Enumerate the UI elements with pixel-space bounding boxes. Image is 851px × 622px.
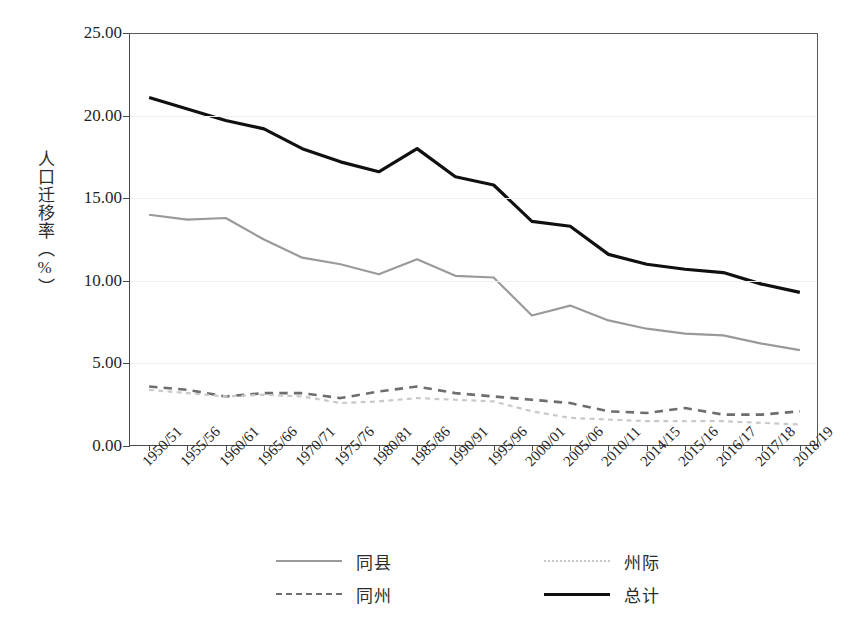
y-tick-label: 20.00	[52, 106, 122, 126]
legend-swatch-州际	[544, 560, 610, 562]
y-tick-mark	[123, 446, 130, 447]
gridline	[130, 198, 818, 199]
series-line-总计	[149, 97, 800, 292]
chart-legend: 同县同州州际总计	[276, 548, 706, 614]
legend-item-州际[interactable]: 州际	[544, 548, 660, 574]
y-tick-mark	[123, 281, 130, 282]
plot-top-border	[129, 33, 818, 34]
y-tick-mark	[123, 363, 130, 364]
y-tick-label: 5.00	[52, 353, 122, 373]
gridline	[130, 363, 818, 364]
legend-swatch-同州	[276, 593, 342, 595]
y-tick-label: 25.00	[52, 23, 122, 43]
legend-swatch-同县	[276, 560, 342, 562]
y-tick-label: 15.00	[52, 188, 122, 208]
chart-figure: 人口迁移率（%） 0.005.0010.0015.0020.0025.00 19…	[0, 0, 851, 622]
legend-item-同州[interactable]: 同州	[276, 581, 392, 607]
legend-swatch-总计	[544, 593, 610, 596]
legend-label: 同县	[356, 549, 392, 574]
plot-area	[129, 33, 818, 446]
legend-label: 总计	[624, 582, 660, 607]
plot-right-border	[817, 33, 818, 447]
legend-label: 同州	[356, 582, 392, 607]
legend-item-同县[interactable]: 同县	[276, 548, 392, 574]
gridline	[130, 281, 818, 282]
y-axis-tick-labels: 0.005.0010.0015.0020.0025.00	[48, 0, 122, 622]
y-tick-label: 10.00	[52, 271, 122, 291]
legend-item-总计[interactable]: 总计	[544, 581, 660, 607]
series-lines	[130, 33, 819, 446]
series-line-同县	[149, 215, 800, 350]
y-tick-label: 0.00	[52, 436, 122, 456]
y-tick-mark	[123, 198, 130, 199]
y-tick-mark	[123, 116, 130, 117]
gridline	[130, 116, 818, 117]
legend-label: 州际	[624, 549, 660, 574]
